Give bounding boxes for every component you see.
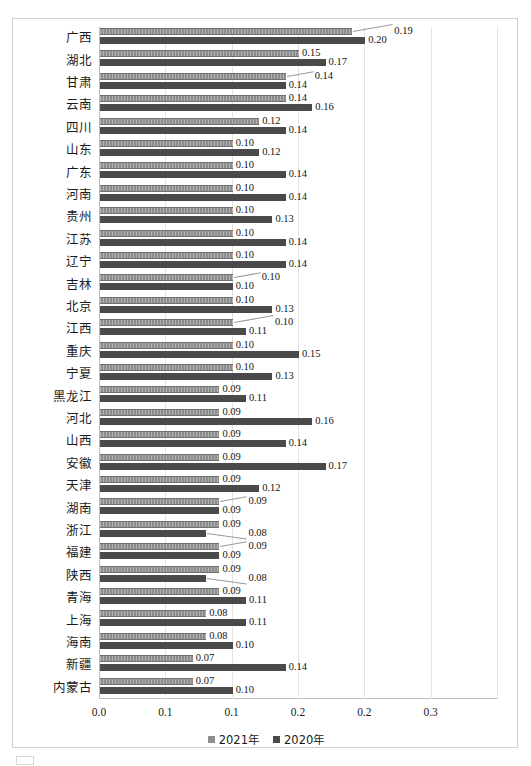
bar-2021 [100,28,352,35]
value-label-2021: 0.09 [222,429,240,440]
bar-2021 [100,319,233,326]
category-label: 内蒙古 [53,682,92,695]
bar-2020 [100,127,286,134]
value-label-2021: 0.09 [222,384,240,395]
bar-row: 内蒙古0.070.10 [99,677,497,699]
bar-row: 重庆0.100.15 [99,341,497,363]
bar-row: 上海0.080.11 [99,609,497,631]
value-label-2020: 0.13 [275,214,293,225]
bar-2020 [100,351,299,358]
bar-2020 [100,642,233,649]
bar-2021 [100,655,193,662]
value-label-2020: 0.14 [289,259,307,270]
bar-2021 [100,50,299,57]
bar-2021 [100,95,286,102]
category-label: 黑龙江 [53,390,92,403]
value-label-2020: 0.11 [249,326,267,337]
bar-row: 天津0.090.12 [99,475,497,497]
x-axis-tick-labels: 0.00.10.10.20.20.3 [99,707,497,725]
value-label-2020: 0.17 [329,461,347,472]
category-label: 安徽 [66,458,92,471]
gridline [497,27,498,699]
bar-2021 [100,364,233,371]
bar-2021 [100,207,233,214]
category-label: 河南 [66,189,92,202]
category-label: 福建 [66,547,92,560]
bar-2021 [100,409,219,416]
value-label-2020: 0.13 [275,304,293,315]
value-label-2021: 0.10 [236,228,254,239]
bar-2020 [100,687,233,694]
bar-2020 [100,485,259,492]
bar-2021 [100,386,219,393]
legend-item[interactable]: 2020年 [273,731,324,747]
value-label-2020: 0.14 [289,438,307,449]
value-label-2021: 0.10 [236,250,254,261]
value-label-2021: 0.10 [236,362,254,373]
chart-frame: 广西0.190.20湖北0.150.17甘肃0.140.14云南0.140.16… [12,18,518,748]
value-label-2021: 0.08 [209,631,227,642]
bar-2020 [100,575,206,582]
value-label-2020: 0.16 [315,416,333,427]
category-label: 新疆 [66,659,92,672]
bar-row: 河北0.090.16 [99,408,497,430]
x-tick-label: 0.2 [357,707,371,719]
bar-2021 [100,118,259,125]
bar-2020 [100,37,365,44]
value-label-2020: 0.15 [302,349,320,360]
bar-2021 [100,230,233,237]
value-label-2020: 0.08 [248,573,266,584]
category-label: 宁夏 [66,368,92,381]
value-label-2020: 0.14 [289,169,307,180]
bar-2020 [100,530,206,537]
label-leader-line [207,533,247,540]
bar-row: 福建0.090.09 [99,542,497,564]
bar-row: 甘肃0.140.14 [99,72,497,94]
bar-2020 [100,306,272,313]
bar-2020 [100,395,246,402]
bar-row: 山西0.090.14 [99,430,497,452]
bar-rows: 广西0.190.20湖北0.150.17甘肃0.140.14云南0.140.16… [99,27,497,699]
bar-row: 江苏0.100.14 [99,229,497,251]
value-label-2021: 0.09 [222,586,240,597]
category-label: 吉林 [66,278,92,291]
bar-row: 贵州0.100.13 [99,206,497,228]
legend-swatch-icon [273,736,280,743]
bar-2021 [100,588,219,595]
label-leader-line [207,578,247,585]
value-label-2021: 0.10 [236,138,254,149]
value-label-2020: 0.11 [249,617,267,628]
x-tick-label: 0.2 [291,707,305,719]
category-label: 重庆 [66,346,92,359]
category-label: 上海 [66,614,92,627]
bar-row: 辽宁0.100.14 [99,251,497,273]
category-label: 河北 [66,413,92,426]
bar-2021 [100,274,233,281]
bar-2021 [100,162,233,169]
value-label-2021: 0.15 [302,48,320,59]
value-label-2020: 0.10 [236,685,254,696]
bar-2021 [100,185,233,192]
value-label-2020: 0.14 [289,662,307,673]
value-label-2020: 0.16 [315,102,333,113]
legend-label: 2021年 [219,731,259,747]
bar-2021 [100,73,286,80]
category-label: 广西 [66,32,92,45]
bar-2021 [100,140,233,147]
legend-item[interactable]: 2021年 [208,731,259,747]
legend-swatch-icon [208,736,215,743]
value-label-2021: 0.12 [262,116,280,127]
bar-2020 [100,440,286,447]
label-leader-line [353,24,393,32]
bar-2020 [100,328,246,335]
value-label-2021: 0.14 [289,93,307,104]
bar-2020 [100,239,286,246]
category-label: 天津 [66,480,92,493]
category-label: 云南 [66,99,92,112]
plot-area: 广西0.190.20湖北0.150.17甘肃0.140.14云南0.140.16… [99,27,497,699]
value-label-2021: 0.10 [236,205,254,216]
value-label-2020: 0.10 [236,281,254,292]
value-label-2020: 0.13 [275,371,293,382]
caption-marker [16,756,34,765]
bar-2020 [100,373,272,380]
